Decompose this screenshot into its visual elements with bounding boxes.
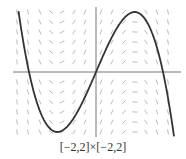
slope-mark <box>111 60 113 65</box>
slope-mark <box>60 121 65 123</box>
slope-mark <box>100 90 102 95</box>
slope-mark <box>111 130 113 135</box>
slope-mark <box>168 109 169 114</box>
slope-mark <box>27 39 28 44</box>
slope-mark <box>84 50 86 55</box>
slope-mark <box>122 50 125 54</box>
slope-mark <box>145 10 148 14</box>
slope-mark <box>60 51 65 53</box>
slope-mark <box>39 50 41 55</box>
slope-mark <box>84 130 86 135</box>
slope-mark <box>39 90 41 95</box>
slope-mark <box>168 39 169 44</box>
slope-mark <box>168 119 169 124</box>
slope-mark <box>100 50 102 55</box>
slope-mark <box>100 20 102 25</box>
slope-mark <box>84 120 86 125</box>
slope-mark <box>27 119 28 124</box>
slope-mark <box>17 9 18 14</box>
slope-mark <box>49 60 53 63</box>
slope-mark <box>111 10 113 15</box>
slope-mark <box>122 90 125 94</box>
slope-mark <box>145 110 148 114</box>
slope-mark <box>100 100 102 105</box>
slope-mark <box>49 10 53 13</box>
slope-mark <box>17 39 18 44</box>
slope-mark <box>100 110 102 115</box>
slope-mark <box>49 50 53 53</box>
slope-mark <box>84 10 86 15</box>
slope-mark <box>84 80 86 85</box>
slope-mark <box>168 59 169 64</box>
slope-mark <box>60 21 65 23</box>
slope-mark <box>60 111 65 113</box>
slope-mark <box>100 10 102 15</box>
slope-mark <box>111 100 113 105</box>
slope-mark <box>145 100 148 104</box>
slope-mark <box>122 40 125 44</box>
slope-mark <box>60 41 65 43</box>
slope-mark <box>168 49 169 54</box>
slope-mark <box>111 120 113 125</box>
slope-mark <box>145 90 148 94</box>
slope-mark <box>73 110 76 114</box>
slope-mark <box>156 120 157 125</box>
slope-mark <box>39 80 41 85</box>
slope-mark <box>49 110 53 113</box>
slope-mark <box>111 80 113 85</box>
slope-mark <box>100 120 102 125</box>
slope-mark <box>111 20 113 25</box>
slope-mark <box>60 91 65 93</box>
slope-mark <box>49 30 53 33</box>
slope-mark <box>39 60 41 65</box>
slope-mark <box>122 10 125 14</box>
slope-mark <box>73 40 76 44</box>
slope-mark <box>100 30 102 35</box>
slope-mark <box>39 130 41 135</box>
slope-mark <box>100 130 102 135</box>
slope-mark <box>73 60 76 64</box>
slope-mark <box>17 99 18 104</box>
slope-mark <box>39 100 41 105</box>
slope-mark <box>17 79 18 84</box>
slope-mark <box>17 29 18 34</box>
slope-mark <box>156 130 157 135</box>
slope-mark <box>84 60 86 65</box>
slope-mark <box>60 11 65 13</box>
slope-mark <box>39 20 41 25</box>
slope-mark <box>156 20 157 25</box>
slope-mark <box>27 29 28 34</box>
slope-mark <box>49 80 53 83</box>
slope-mark <box>17 109 18 114</box>
slope-mark <box>27 9 28 14</box>
slope-mark <box>122 80 125 84</box>
slope-mark <box>73 30 76 34</box>
slope-mark <box>49 100 53 103</box>
slope-mark <box>17 59 18 64</box>
slope-mark <box>84 40 86 45</box>
window-range-caption: [−2,2]×[−2,2] <box>0 140 186 155</box>
slope-mark <box>100 80 102 85</box>
slope-mark <box>73 90 76 94</box>
slope-mark <box>60 81 65 83</box>
slope-mark <box>145 130 148 134</box>
slope-mark <box>100 40 102 45</box>
slope-mark <box>145 80 148 84</box>
slope-mark <box>49 40 53 43</box>
slope-mark <box>84 110 86 115</box>
slope-mark <box>84 20 86 25</box>
slope-mark <box>111 90 113 95</box>
slope-mark <box>17 49 18 54</box>
slope-mark <box>168 79 169 84</box>
slope-mark <box>39 40 41 45</box>
slope-mark <box>39 30 41 35</box>
slope-mark <box>39 10 41 15</box>
slope-mark <box>156 100 157 105</box>
slope-mark <box>111 110 113 115</box>
slope-mark <box>168 19 169 24</box>
slope-mark <box>27 129 28 134</box>
slope-mark <box>73 20 76 24</box>
slope-mark <box>27 19 28 24</box>
slope-mark <box>73 130 76 134</box>
slope-mark <box>145 120 148 124</box>
